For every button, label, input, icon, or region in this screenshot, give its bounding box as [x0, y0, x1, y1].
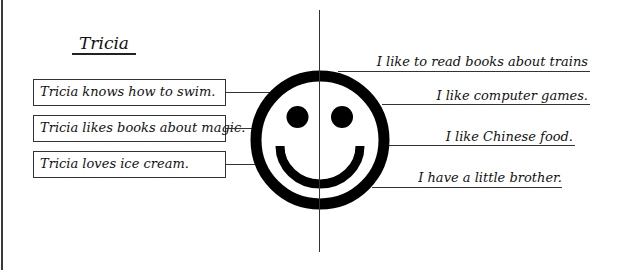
answer-line: [372, 187, 562, 188]
divider-line: [319, 10, 321, 252]
my-fact-chinese-food: I like Chinese food.: [446, 129, 573, 144]
answer-line: [382, 104, 590, 105]
answer-line: [389, 145, 575, 146]
answer-line: [338, 71, 590, 72]
my-fact-brother: I have a little brother.: [418, 170, 562, 185]
my-fact-trains: I like to read books about trains: [377, 54, 588, 69]
my-fact-computer-games: I like computer games.: [436, 88, 588, 103]
